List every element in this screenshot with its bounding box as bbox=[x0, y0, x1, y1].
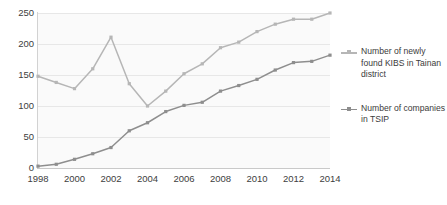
data-point-marker bbox=[128, 129, 131, 132]
x-axis-tick-labels: 199820002002200420062008201020122014 bbox=[38, 174, 330, 188]
legend: Number of newly found KIBS in Tainan dis… bbox=[341, 46, 447, 148]
y-tick-label: 50 bbox=[4, 132, 34, 142]
data-point-marker bbox=[328, 11, 331, 14]
data-point-marker bbox=[146, 104, 149, 107]
data-point-marker bbox=[109, 36, 112, 39]
data-point-marker bbox=[274, 23, 277, 26]
x-tick-label: 2014 bbox=[319, 174, 340, 184]
x-tick-label: 2006 bbox=[173, 174, 194, 184]
data-point-marker bbox=[255, 30, 258, 33]
series-tsip bbox=[36, 54, 331, 168]
x-tick-label: 2002 bbox=[100, 174, 121, 184]
data-point-marker bbox=[201, 62, 204, 65]
data-point-marker bbox=[274, 68, 277, 71]
x-tick-label: 2012 bbox=[283, 174, 304, 184]
legend-marker-icon bbox=[341, 105, 357, 114]
legend-entry-tsip[interactable]: Number of companies in TSIP bbox=[341, 103, 447, 126]
series-plot bbox=[38, 13, 330, 168]
data-point-marker bbox=[219, 90, 222, 93]
data-point-marker bbox=[73, 87, 76, 90]
data-point-marker bbox=[310, 18, 313, 21]
legend-label: Number of newly found KIBS in Tainan dis… bbox=[361, 46, 447, 81]
data-point-marker bbox=[91, 67, 94, 70]
data-point-marker bbox=[310, 60, 313, 63]
legend-marker-icon bbox=[341, 48, 357, 57]
x-tick-label: 2008 bbox=[210, 174, 231, 184]
data-point-marker bbox=[55, 163, 58, 166]
data-point-marker bbox=[255, 78, 258, 81]
series-line bbox=[38, 55, 330, 166]
y-tick-label: 100 bbox=[4, 101, 34, 111]
x-tick-label: 2004 bbox=[137, 174, 158, 184]
data-point-marker bbox=[55, 81, 58, 84]
data-point-marker bbox=[109, 146, 112, 149]
data-point-marker bbox=[36, 75, 39, 78]
data-point-marker bbox=[292, 61, 295, 64]
x-tick-label: 2000 bbox=[64, 174, 85, 184]
y-tick-label: 200 bbox=[4, 39, 34, 49]
series-kibs bbox=[36, 11, 331, 107]
y-tick-label: 150 bbox=[4, 70, 34, 80]
data-point-marker bbox=[182, 72, 185, 75]
data-point-marker bbox=[146, 121, 149, 124]
legend-label: Number of companies in TSIP bbox=[361, 103, 447, 126]
x-axis-line bbox=[37, 168, 330, 169]
line-chart: 250200150100500 199820002002200420062008… bbox=[0, 0, 447, 205]
y-tick-label: 250 bbox=[4, 8, 34, 18]
data-point-marker bbox=[128, 82, 131, 85]
x-tick-label: 2010 bbox=[246, 174, 267, 184]
data-point-marker bbox=[201, 101, 204, 104]
data-point-marker bbox=[164, 110, 167, 113]
series-line bbox=[38, 13, 330, 106]
data-point-marker bbox=[328, 54, 331, 57]
x-tick-label: 1998 bbox=[27, 174, 48, 184]
data-point-marker bbox=[237, 84, 240, 87]
data-point-marker bbox=[219, 46, 222, 49]
data-point-marker bbox=[91, 152, 94, 155]
data-point-marker bbox=[237, 41, 240, 44]
data-point-marker bbox=[164, 90, 167, 93]
data-point-marker bbox=[36, 165, 39, 168]
y-tick-label: 0 bbox=[4, 163, 34, 173]
data-point-marker bbox=[73, 158, 76, 161]
data-point-marker bbox=[292, 18, 295, 21]
data-point-marker bbox=[182, 104, 185, 107]
legend-entry-kibs[interactable]: Number of newly found KIBS in Tainan dis… bbox=[341, 46, 447, 81]
